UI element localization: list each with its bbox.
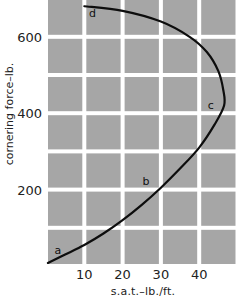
curve-annotation-c: c <box>208 100 214 112</box>
vertical-gridline <box>197 0 201 264</box>
curve-annotation-a: a <box>54 245 61 257</box>
x-tick-label: 40 <box>184 268 214 282</box>
y-tick-label: 200 <box>2 184 42 198</box>
vertical-gridline <box>159 0 163 264</box>
x-tick-label: 10 <box>69 268 99 282</box>
vertical-gridline <box>236 0 239 264</box>
y-axis-label: cornering force–lb. <box>3 63 16 166</box>
horizontal-gridline <box>48 188 238 192</box>
horizontal-gridline <box>48 73 238 77</box>
x-tick-label: 30 <box>146 268 176 282</box>
vertical-gridline <box>121 0 125 264</box>
horizontal-gridline <box>48 111 238 115</box>
vertical-gridline <box>82 0 86 264</box>
x-axis-label: s.a.t.–lb./ft. <box>111 285 175 298</box>
horizontal-gridline <box>48 149 238 153</box>
chart: 200400600 10203040 cornering force–lb. s… <box>0 0 238 303</box>
plot-area <box>0 0 238 303</box>
horizontal-gridline <box>48 226 238 230</box>
x-tick-label: 20 <box>108 268 138 282</box>
y-tick-label: 600 <box>2 31 42 45</box>
horizontal-gridline <box>48 35 238 39</box>
curve-annotation-b: b <box>143 176 150 188</box>
curve-annotation-d: d <box>89 8 96 20</box>
